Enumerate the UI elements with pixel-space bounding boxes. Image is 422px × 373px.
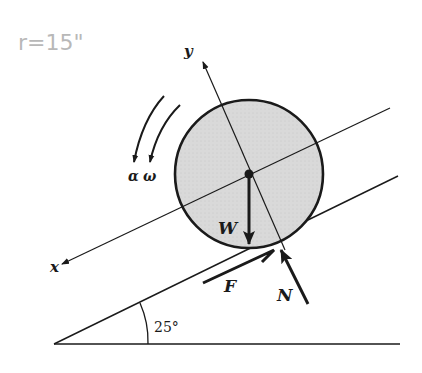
omega-arrow — [150, 105, 180, 162]
radius-annotation: r=15" — [18, 30, 84, 55]
weight-label: W — [218, 218, 239, 238]
angle-arc — [140, 303, 148, 344]
alpha-label: α — [128, 168, 139, 184]
omega-label: ω — [143, 168, 157, 184]
free-body-diagram: r=15" 25° x y W N F α ω — [0, 0, 422, 373]
x-axis-label: x — [49, 258, 60, 276]
alpha-arrow — [134, 96, 164, 162]
incline-angle-label: 25° — [154, 319, 179, 335]
y-axis-label: y — [183, 42, 194, 60]
normal-force-label: N — [276, 285, 294, 305]
friction-label: F — [223, 276, 238, 296]
